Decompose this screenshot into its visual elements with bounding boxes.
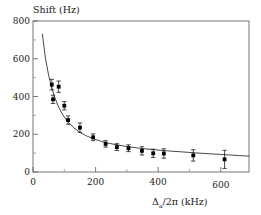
data-point bbox=[191, 150, 195, 161]
data-point bbox=[66, 116, 70, 124]
svg-text:Δa/2π (kHz): Δa/2π (kHz) bbox=[152, 196, 207, 209]
data-point bbox=[222, 150, 226, 168]
data-series-measured-shift bbox=[50, 79, 227, 168]
x-axis-ticks bbox=[33, 167, 221, 172]
y-axis-ticks bbox=[33, 21, 38, 172]
data-marker bbox=[78, 126, 82, 130]
data-point bbox=[126, 145, 130, 152]
y-tick-label: 800 bbox=[13, 16, 30, 26]
x-tick-label: 0 bbox=[30, 177, 36, 187]
x-tick-label: 400 bbox=[150, 177, 167, 187]
data-point bbox=[62, 102, 66, 110]
data-marker bbox=[127, 146, 131, 150]
data-marker bbox=[91, 135, 95, 139]
data-point bbox=[56, 81, 60, 92]
data-point bbox=[91, 134, 95, 141]
data-marker bbox=[151, 151, 155, 155]
data-marker bbox=[115, 145, 119, 149]
x-axis-label-rest: /2π (kHz) bbox=[162, 196, 207, 207]
y-tick-label: 200 bbox=[13, 129, 30, 139]
data-marker bbox=[66, 118, 70, 122]
data-marker bbox=[62, 104, 66, 108]
data-marker bbox=[140, 149, 144, 153]
x-tick-labels: 0 200 400 600 bbox=[30, 177, 230, 190]
data-point bbox=[151, 149, 155, 157]
y-axis-label: Shift (Hz) bbox=[33, 4, 80, 15]
data-marker bbox=[104, 142, 108, 146]
x-tick-label: 200 bbox=[87, 177, 104, 187]
data-marker bbox=[223, 157, 227, 161]
fit-curve bbox=[42, 34, 249, 156]
y-tick-label: 400 bbox=[13, 92, 30, 102]
data-marker bbox=[51, 97, 55, 101]
y-tick-label: 600 bbox=[13, 54, 30, 64]
y-tick-label: 0 bbox=[24, 167, 30, 177]
data-marker bbox=[57, 85, 61, 89]
x-tick-label: 600 bbox=[212, 180, 229, 190]
figure-container: Shift (Hz) Δa/2π (kHz) bbox=[0, 0, 261, 215]
scatter-plot: Shift (Hz) Δa/2π (kHz) bbox=[0, 0, 261, 215]
data-marker bbox=[50, 83, 54, 87]
y-tick-labels: 0 200 400 600 800 bbox=[13, 16, 30, 177]
x-axis-label: Δa/2π (kHz) bbox=[152, 196, 207, 209]
data-marker bbox=[191, 153, 195, 157]
data-marker bbox=[162, 152, 166, 156]
